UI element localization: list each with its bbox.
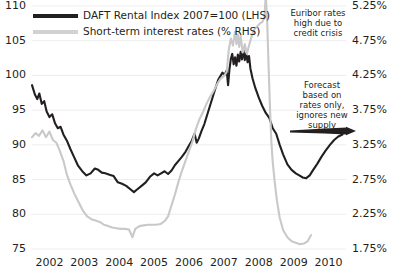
y-axis-right-tick: 5.25% <box>352 0 398 12</box>
y-axis-right-tick: 1.75% <box>352 242 398 255</box>
annotation-line: Euribor rates <box>278 8 358 18</box>
y-axis-left-tick: 90 <box>0 138 26 151</box>
x-axis-tick: 2010 <box>309 256 349 269</box>
annotation-line: ignores new <box>282 110 362 120</box>
chart-container: 7580859095100105110 1.75%2.25%2.75%3.25%… <box>0 0 398 280</box>
y-axis-right-tick: 2.75% <box>352 173 398 186</box>
y-axis-left-tick: 85 <box>0 173 26 186</box>
y-axis-left-tick: 95 <box>0 103 26 116</box>
annotation-line: supply <box>282 120 362 130</box>
y-axis-left-tick: 110 <box>0 0 26 12</box>
annotation-line: based on <box>282 90 362 100</box>
legend-label-interest-rates: Short-term interest rates (% RHS) <box>83 25 260 37</box>
y-axis-left-tick: 100 <box>0 68 26 81</box>
annotation-line: high due to <box>278 18 358 28</box>
legend-swatch-rental-index <box>33 14 78 18</box>
euribor-annotation: Euribor rateshigh due tocredit crisis <box>278 8 358 38</box>
y-axis-right-tick: 2.25% <box>352 207 398 220</box>
y-axis-left-tick: 105 <box>0 34 26 47</box>
y-axis-right-tick: 4.75% <box>352 34 398 47</box>
chart-plot-area <box>0 0 398 280</box>
y-axis-left-tick: 75 <box>0 242 26 255</box>
legend-swatch-interest-rates <box>33 30 78 34</box>
annotation-line: rates only, <box>282 100 362 110</box>
annotation-line: Forecast <box>282 80 362 90</box>
y-axis-right-tick: 3.25% <box>352 138 398 151</box>
forecast-annotation: Forecastbased onrates only,ignores newsu… <box>282 80 362 130</box>
annotation-line: credit crisis <box>278 28 358 38</box>
legend-label-rental-index: DAFT Rental Index 2007=100 (LHS) <box>83 9 270 21</box>
y-axis-left-tick: 80 <box>0 207 26 220</box>
